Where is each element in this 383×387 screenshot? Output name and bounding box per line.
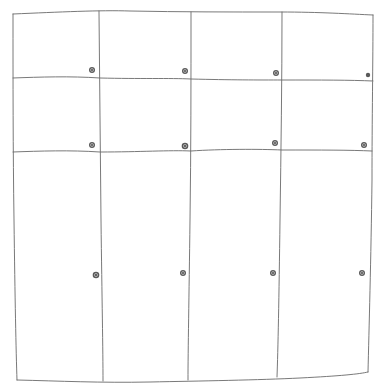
knob-icon	[270, 270, 276, 276]
vertical-divider-3	[277, 12, 282, 377]
knob-icon	[89, 67, 95, 73]
cabinet-frame	[13, 11, 373, 383]
knob-icon	[361, 142, 367, 148]
frame-right-edge	[368, 15, 373, 372]
vertical-divider-1	[99, 11, 103, 381]
frame-bottom-edge	[17, 372, 368, 382]
knob-icon	[272, 140, 278, 146]
knob-icon	[180, 270, 186, 276]
vertical-divider-2	[188, 12, 191, 380]
frame-left-edge	[13, 14, 17, 380]
frame-top-edge	[13, 11, 373, 15]
knob-icon	[366, 73, 370, 77]
horizontal-divider-1	[13, 77, 373, 81]
knob-icon	[93, 272, 100, 279]
knob-icon	[89, 142, 95, 148]
cabinet-sketch	[0, 0, 383, 387]
knob-icon	[182, 143, 189, 150]
horizontal-divider-2	[13, 149, 372, 152]
knob-icon	[359, 270, 365, 276]
door-knobs	[89, 67, 370, 278]
door-dividers	[13, 11, 373, 381]
knob-icon	[273, 70, 279, 76]
knob-icon	[182, 68, 188, 74]
